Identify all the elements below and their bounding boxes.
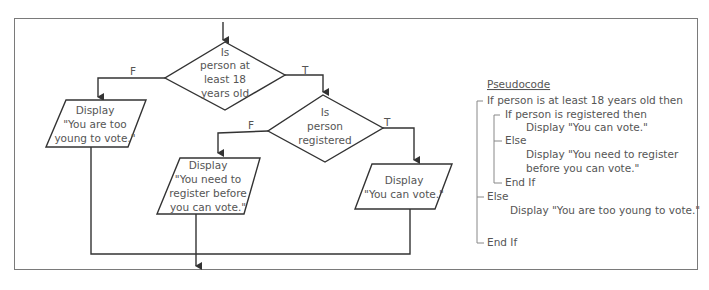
age-true-connector xyxy=(285,75,323,92)
svg-text:"You are too: "You are too xyxy=(63,118,127,130)
age-false-label: F xyxy=(130,65,136,77)
output-can-vote-shape xyxy=(355,164,452,209)
svg-text:least 18: least 18 xyxy=(204,73,246,85)
svg-text:Display "You are too young to: Display "You are too young to vote." xyxy=(510,204,700,216)
age-true-label: T xyxy=(301,64,309,76)
svg-text:young to vote.": young to vote." xyxy=(54,132,135,144)
registered-false-label: F xyxy=(248,119,254,131)
svg-text:registered: registered xyxy=(298,134,351,146)
age-false-connector xyxy=(98,78,165,97)
svg-text:years old: years old xyxy=(201,87,249,99)
registered-true-label: T xyxy=(383,116,391,128)
pseudocode-title: Pseudocode xyxy=(487,78,550,90)
flowchart-diagram: Is person at least 18 years old F T Disp… xyxy=(0,0,709,290)
svg-text:If person is at least 18 years: If person is at least 18 years old then xyxy=(487,94,683,106)
outer-if-bracket xyxy=(477,101,484,243)
svg-text:Display "You need to register: Display "You need to register xyxy=(526,148,679,160)
pseudocode-block: Pseudocode If person is at least 18 year… xyxy=(487,78,700,248)
svg-text:End If: End If xyxy=(505,176,535,188)
inner-if-bracket xyxy=(494,115,502,183)
svg-text:Display: Display xyxy=(76,104,115,116)
svg-text:register before: register before xyxy=(169,187,247,199)
svg-text:person: person xyxy=(307,120,343,132)
svg-text:Display: Display xyxy=(385,174,424,186)
svg-text:Else: Else xyxy=(505,134,526,146)
svg-text:"You need to: "You need to xyxy=(175,173,241,185)
svg-text:Else: Else xyxy=(487,190,508,202)
flowchart-figure: Is person at least 18 years old F T Disp… xyxy=(0,0,709,290)
registered-true-connector xyxy=(383,128,414,160)
svg-text:If person is registered then: If person is registered then xyxy=(505,108,647,120)
svg-text:End If: End If xyxy=(487,236,517,248)
svg-text:Display "You can vote.": Display "You can vote." xyxy=(526,121,648,133)
registered-false-connector xyxy=(218,131,268,153)
svg-text:you can vote.": you can vote." xyxy=(170,201,246,213)
svg-text:person at: person at xyxy=(200,59,250,71)
svg-text:Display: Display xyxy=(189,159,228,171)
svg-text:Is: Is xyxy=(321,106,330,118)
svg-text:before you can vote.": before you can vote." xyxy=(526,162,639,174)
svg-text:"You can vote.": "You can vote." xyxy=(364,188,444,200)
svg-text:Is: Is xyxy=(221,46,230,58)
